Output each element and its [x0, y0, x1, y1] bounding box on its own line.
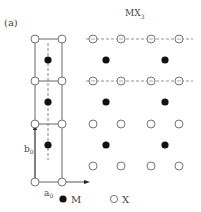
x-chain-lines: [86, 39, 193, 81]
m-atoms: [44, 56, 168, 148]
legend-m-label: M: [71, 194, 81, 205]
figure-title: MX3: [125, 8, 145, 20]
legend: M X: [59, 194, 130, 205]
legend-x-label: X: [122, 194, 130, 205]
legend-x-symbol: [110, 195, 117, 202]
b0-arrow: [33, 124, 37, 182]
a0-label: a0: [44, 188, 53, 199]
legend-m-symbol: [59, 195, 66, 202]
panel-label: (a): [4, 17, 18, 28]
b0-label: b0: [24, 144, 34, 155]
mx3-structure-diagram: (a) MX3 b0 a0: [0, 0, 201, 212]
